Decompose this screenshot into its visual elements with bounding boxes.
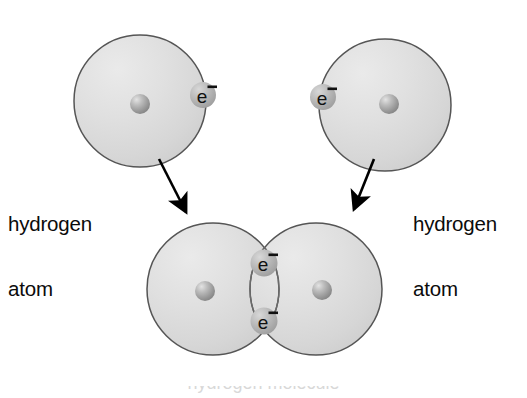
label-hydrogen-atom-left: hydrogen atom [8, 170, 92, 342]
nucleus-molecule-left [195, 281, 215, 301]
bottom-caption-clip: hydrogen molecule [0, 386, 527, 398]
hydrogen-molecule-group: e e [147, 223, 382, 355]
label-line-1: hydrogen [413, 213, 497, 235]
electron-charge-minus [328, 88, 338, 91]
bottom-caption-text: hydrogen molecule [0, 386, 527, 394]
electron-charge-minus [208, 86, 218, 89]
electron-symbol: e [258, 254, 269, 275]
nucleus-right-atom [379, 94, 399, 114]
electron-charge-minus [269, 254, 279, 257]
figure-canvas: e e [0, 0, 527, 398]
electron-charge-minus [269, 312, 279, 315]
electron-symbol: e [317, 88, 328, 109]
electron-symbol: e [197, 86, 208, 107]
hydrogen-atom-right-group: e [310, 39, 451, 171]
electron-symbol: e [258, 312, 269, 333]
nucleus-molecule-right [312, 280, 332, 300]
electron-left-atom: e [190, 82, 217, 108]
label-hydrogen-atom-right: hydrogen atom [413, 170, 497, 342]
label-line-2: atom [8, 278, 92, 300]
label-line-1: hydrogen [8, 213, 92, 235]
arrow-left [159, 159, 186, 212]
hydrogen-atom-left-group: e [74, 35, 217, 167]
label-line-2: atom [413, 278, 497, 300]
nucleus-left-atom [130, 94, 150, 114]
